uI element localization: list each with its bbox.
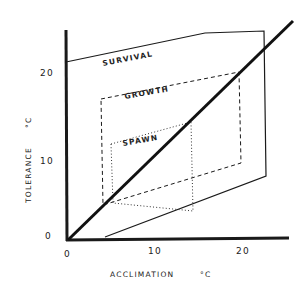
survival-label: SURVIVAL [102, 49, 154, 68]
x-tick-10: 10 [148, 246, 162, 256]
x-axis-title: ACCLIMATION [110, 270, 174, 279]
spawn-label: SPAWN [122, 133, 159, 148]
y-axis-unit: °C [24, 117, 33, 128]
y-tick-20: 20 [40, 68, 54, 78]
y-tick-10: 10 [40, 156, 54, 166]
survival-boundary [66, 31, 266, 237]
x-axis-unit: °C [200, 270, 211, 279]
y-tick-0: 0 [45, 231, 52, 241]
y-axis-title: TOLERANCE [24, 147, 33, 204]
x-tick-0: 0 [64, 249, 71, 259]
x-tick-20: 20 [236, 246, 250, 256]
growth-label: GROWTH [124, 84, 170, 101]
x-axis [66, 238, 289, 240]
chart-canvas: SURVIVAL GROWTH SPAWN 20 10 0 0 10 20 AC… [0, 0, 305, 295]
